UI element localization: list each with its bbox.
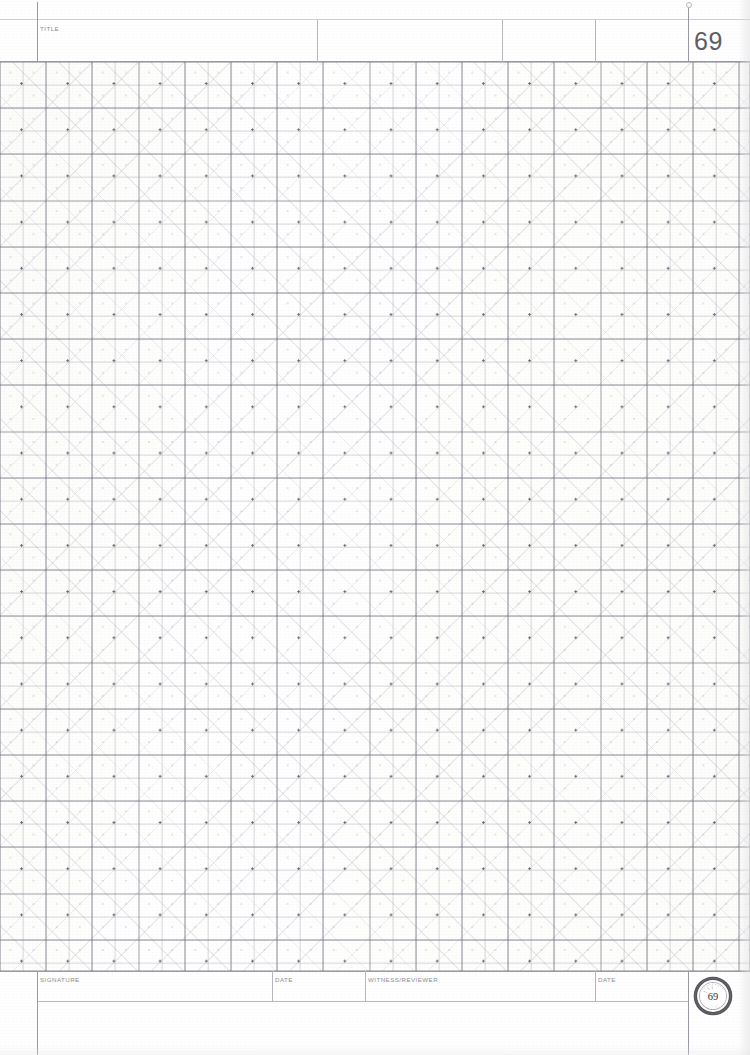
witness-date-input[interactable] <box>596 983 687 1001</box>
signature-input[interactable] <box>38 983 271 1001</box>
header-divider-3 <box>595 20 596 62</box>
notary-seal-stamp: 69 <box>692 975 734 1017</box>
right-margin-rule <box>688 4 689 62</box>
header-top-rule <box>0 19 750 20</box>
bottom-blank-area <box>38 1002 687 1055</box>
left-margin-rule <box>37 2 38 62</box>
header-divider-1 <box>317 20 318 62</box>
registration-mark-icon <box>686 2 692 8</box>
witness-reviewer-field-label: WITNESS/REVIEWER <box>368 976 438 983</box>
page-header: TITLE 69 <box>0 0 750 62</box>
witness-reviewer-input[interactable] <box>366 983 594 1001</box>
title-field-label: TITLE <box>40 25 59 32</box>
signature-field-label: SIGNATURE <box>40 976 80 983</box>
footer-top-rule <box>0 971 750 972</box>
page-number: 69 <box>694 27 723 56</box>
signature-date-input[interactable] <box>273 983 364 1001</box>
notebook-page: TITLE 69 SIGNATURE DATE WITNESS/REVIEWER… <box>0 0 750 1055</box>
signature-date-field-label: DATE <box>275 976 293 983</box>
seal-page-number: 69 <box>708 991 719 1002</box>
header-divider-2 <box>502 20 503 62</box>
header-bottom-rule <box>0 61 750 62</box>
grid-major-dots <box>0 62 750 971</box>
witness-date-field-label: DATE <box>598 976 616 983</box>
footer-right-margin-rule <box>688 971 689 1055</box>
grid-paper-area <box>0 62 750 971</box>
